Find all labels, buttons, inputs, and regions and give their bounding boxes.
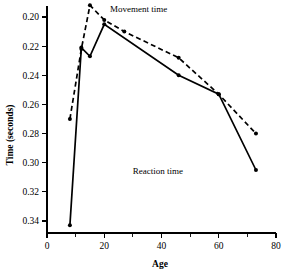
y-tick-label: 0.20 [22,12,39,22]
chart-background [0,0,284,271]
data-point-marker [254,168,258,172]
data-point-marker [254,132,258,136]
y-tick-label: 0.26 [22,100,39,110]
x-tick-label: 80 [271,241,281,251]
data-point-marker [102,18,106,22]
x-tick-label: 40 [157,241,167,251]
data-point-marker [68,223,72,227]
chart-figure: 0.200.220.240.260.280.300.320.34 0204060… [0,0,284,271]
series-label-movement-time: Movement time [110,4,167,14]
y-tick-label: 0.22 [22,42,39,52]
data-point-marker [122,30,126,34]
data-point-marker [88,3,92,7]
x-tick-label: 20 [100,241,110,251]
y-axis-title: Time (seconds) [5,105,16,166]
x-axis-title: Age [152,259,168,269]
data-point-marker [68,117,72,121]
y-tick-label: 0.24 [22,71,39,81]
series-label-reaction-time: Reaction time [133,166,183,176]
data-point-marker [217,92,221,96]
data-point-marker [177,73,181,77]
data-point-marker [102,22,106,26]
y-tick-label: 0.30 [22,158,39,168]
data-point-marker [79,46,83,50]
x-tick-label: 0 [45,241,50,251]
y-tick-label: 0.34 [22,216,39,226]
line-chart: 0.200.220.240.260.280.300.320.34 0204060… [0,0,284,271]
x-tick-label: 60 [214,241,224,251]
data-point-marker [177,56,181,60]
data-point-marker [88,54,92,58]
y-tick-label: 0.28 [22,129,39,139]
y-tick-label: 0.32 [22,187,39,197]
